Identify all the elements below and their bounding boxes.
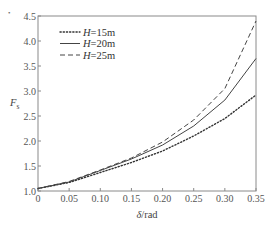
- series-lines: [38, 21, 256, 189]
- x-tick-label: 0.20: [154, 193, 172, 204]
- y-tick-label: 3.0: [24, 86, 37, 97]
- y-tick-label: 2.5: [24, 111, 37, 122]
- y-axis-label: Fs: [9, 97, 19, 111]
- line-chart: • 1.01.52.02.53.03.54.04.5 00.050.100.15…: [0, 0, 273, 229]
- y-tick-label: 1.5: [24, 161, 37, 172]
- x-axis-label: δ/rad: [136, 209, 158, 220]
- y-tick-label: 4.5: [24, 11, 37, 22]
- x-tick-label: 0.25: [185, 193, 203, 204]
- y-tick-label: 2.0: [24, 136, 37, 147]
- legend-label: H=20m: [82, 38, 115, 49]
- x-axis-ticks: 00.050.100.150.200.250.300.35: [36, 188, 265, 204]
- series-line-h-25m: [38, 21, 256, 189]
- legend: H=15mH=20mH=25m: [60, 27, 115, 61]
- series-line-h-15m: [38, 95, 256, 189]
- y-tick-label: 4.0: [24, 36, 37, 47]
- legend-label: H=25m: [82, 50, 115, 61]
- y-tick-label: 3.5: [24, 61, 37, 72]
- x-tick-label: 0.35: [247, 193, 265, 204]
- series-line-h-20m: [38, 59, 256, 189]
- plot-frame: [38, 16, 256, 191]
- stray-marker: •: [8, 9, 11, 17]
- x-tick-label: 0: [36, 193, 41, 204]
- x-tick-label: 0.05: [60, 193, 78, 204]
- x-tick-label: 0.10: [92, 193, 110, 204]
- x-tick-label: 0.30: [216, 193, 234, 204]
- x-tick-label: 0.15: [123, 193, 141, 204]
- legend-label: H=15m: [82, 27, 115, 38]
- y-tick-label: 1.0: [24, 186, 37, 197]
